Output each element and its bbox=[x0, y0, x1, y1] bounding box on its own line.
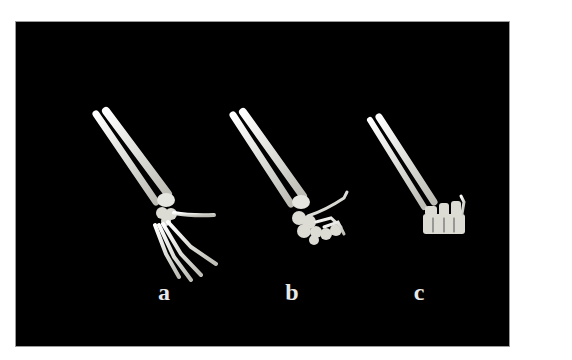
hand-skeleton-illustrations bbox=[16, 22, 511, 348]
skeleton-a-open-hand bbox=[96, 111, 216, 280]
skeleton-c-fist bbox=[370, 117, 465, 234]
label-a: a bbox=[149, 278, 179, 306]
skeleton-b-flexed-hand bbox=[233, 112, 347, 245]
figure-panel: a b c bbox=[15, 21, 510, 347]
label-c: c bbox=[404, 278, 434, 306]
label-b: b bbox=[277, 278, 307, 306]
